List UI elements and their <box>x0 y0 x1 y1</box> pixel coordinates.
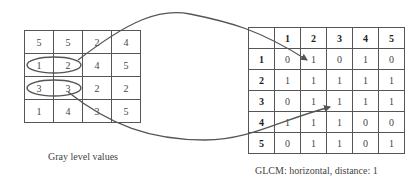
gray-cell: 5 <box>25 31 54 54</box>
gray-level-caption: Gray level values <box>48 151 118 162</box>
glcm-cell: 0 <box>275 49 301 70</box>
glcm-cell: 0 <box>379 112 405 133</box>
glcm-row-header: 3 <box>249 91 275 112</box>
glcm-row-header: 2 <box>249 70 275 91</box>
gray-level-matrix: 5 5 2 4 1 2 4 5 3 3 2 2 1 4 3 5 <box>24 30 141 123</box>
glcm-matrix: 1 2 3 4 5 1 0 1 0 1 0 2 1 1 1 1 1 3 0 1 … <box>248 27 405 154</box>
glcm-cell: 1 <box>353 49 379 70</box>
gray-row: 3 3 2 2 <box>25 77 141 100</box>
glcm-row: 4 1 1 1 0 0 <box>249 112 405 133</box>
glcm-row: 5 0 1 1 0 1 <box>249 133 405 154</box>
gray-cell: 1 <box>25 54 54 77</box>
gray-cell: 1 <box>25 100 54 123</box>
glcm-col-header: 3 <box>327 28 353 49</box>
glcm-col-header: 4 <box>353 28 379 49</box>
glcm-row: 1 0 1 0 1 0 <box>249 49 405 70</box>
glcm-cell: 1 <box>379 91 405 112</box>
gray-cell: 4 <box>112 31 141 54</box>
glcm-cell: 1 <box>327 91 353 112</box>
gray-cell: 4 <box>54 100 83 123</box>
gray-cell: 4 <box>83 54 112 77</box>
gray-cell: 5 <box>112 54 141 77</box>
glcm-cell: 1 <box>275 112 301 133</box>
gray-cell: 3 <box>83 100 112 123</box>
glcm-cell: 1 <box>275 70 301 91</box>
glcm-row-header: 5 <box>249 133 275 154</box>
glcm-cell: 1 <box>301 112 327 133</box>
gray-cell: 2 <box>83 31 112 54</box>
glcm-row: 3 0 1 1 1 1 <box>249 91 405 112</box>
glcm-row: 2 1 1 1 1 1 <box>249 70 405 91</box>
glcm-cell: 0 <box>275 91 301 112</box>
glcm-corner-cell <box>249 28 275 49</box>
glcm-row-header: 1 <box>249 49 275 70</box>
glcm-cell: 1 <box>327 70 353 91</box>
glcm-col-header: 5 <box>379 28 405 49</box>
gray-cell: 2 <box>54 54 83 77</box>
glcm-cell: 1 <box>353 91 379 112</box>
gray-cell: 3 <box>25 77 54 100</box>
glcm-col-header: 1 <box>275 28 301 49</box>
glcm-cell: 1 <box>327 112 353 133</box>
glcm-caption: GLCM: horizontal, distance: 1 <box>255 165 378 176</box>
glcm-row-header: 4 <box>249 112 275 133</box>
gray-cell: 5 <box>54 31 83 54</box>
glcm-cell: 1 <box>327 133 353 154</box>
glcm-cell: 1 <box>353 70 379 91</box>
glcm-cell: 0 <box>327 49 353 70</box>
gray-row: 1 4 3 5 <box>25 100 141 123</box>
glcm-cell: 0 <box>275 133 301 154</box>
glcm-cell: 1 <box>379 70 405 91</box>
glcm-cell: 0 <box>353 112 379 133</box>
glcm-col-header: 2 <box>301 28 327 49</box>
gray-cell: 5 <box>112 100 141 123</box>
glcm-header-row: 1 2 3 4 5 <box>249 28 405 49</box>
glcm-cell: 1 <box>301 91 327 112</box>
glcm-cell: 0 <box>353 133 379 154</box>
gray-cell: 2 <box>112 77 141 100</box>
glcm-cell: 1 <box>301 133 327 154</box>
glcm-cell: 0 <box>379 49 405 70</box>
glcm-cell: 1 <box>379 133 405 154</box>
gray-cell: 2 <box>83 77 112 100</box>
gray-row: 1 2 4 5 <box>25 54 141 77</box>
glcm-cell: 1 <box>301 70 327 91</box>
gray-cell: 3 <box>54 77 83 100</box>
glcm-cell: 1 <box>301 49 327 70</box>
gray-row: 5 5 2 4 <box>25 31 141 54</box>
